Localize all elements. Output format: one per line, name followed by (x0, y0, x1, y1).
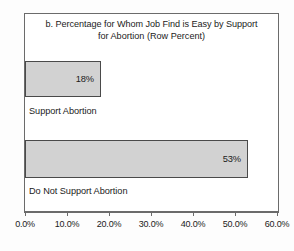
x-axis-tick (109, 212, 110, 216)
x-axis-tick (193, 212, 194, 216)
x-axis-tick (25, 212, 26, 216)
x-axis-tick-label: 10.0% (55, 219, 80, 229)
category-label-support-abortion: Support Abortion (29, 106, 97, 116)
x-axis-tick-label: 30.0% (139, 219, 164, 229)
x-axis-tick (277, 212, 278, 216)
bar-value-label: 53% (223, 154, 241, 164)
chart-title: b. Percentage for Whom Job Find is Easy … (26, 18, 277, 43)
chart-title-line-1: b. Percentage for Whom Job Find is Easy … (26, 18, 277, 30)
x-axis-tick-label: 60.0% (265, 219, 290, 229)
category-label-do-not-support-abortion: Do Not Support Abortion (29, 186, 127, 196)
x-axis-tick (235, 212, 236, 216)
bar-support-abortion: 18% (25, 61, 101, 97)
x-axis-tick-label: 0.0% (15, 219, 35, 229)
x-axis-tick (151, 212, 152, 216)
chart-title-line-2: for Abortion (Row Percent) (26, 30, 277, 42)
x-axis-tick (67, 212, 68, 216)
bar-value-label: 18% (76, 74, 94, 84)
x-axis-tick-label: 50.0% (223, 219, 248, 229)
bar-do-not-support-abortion: 53% (25, 140, 248, 178)
x-axis-tick-label: 40.0% (181, 219, 206, 229)
x-axis-tick-label: 20.0% (97, 219, 122, 229)
chart-figure: b. Percentage for Whom Job Find is Easy … (0, 0, 294, 251)
